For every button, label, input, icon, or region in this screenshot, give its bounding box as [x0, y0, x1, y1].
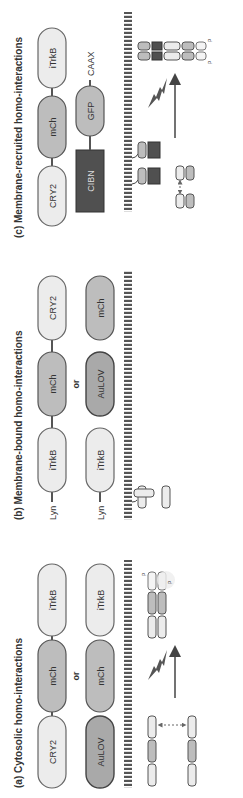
domain-label: AuLOV	[96, 369, 106, 398]
domain-label: iTrkB	[96, 450, 106, 471]
monomer-right	[188, 716, 196, 786]
domain-label: mCh	[96, 666, 106, 685]
panel-c: (c) Membrane-recruited homo-interactions…	[13, 12, 213, 238]
membrane	[124, 12, 132, 212]
domain-label: AuLOV	[96, 737, 106, 766]
panel-b: (b) Membrane-bound homo-interactions Lyn…	[13, 270, 170, 520]
domain-label: GFP	[86, 102, 96, 121]
membrane	[124, 560, 132, 788]
phospho-label: P	[207, 60, 213, 64]
domain-label: mCh	[48, 666, 58, 685]
panel-a-construct-1: CRY2 mCh iTrkB	[38, 564, 66, 788]
panel-a: (a) Cytosolic homo-interactions CRY2 mCh…	[13, 560, 196, 788]
panel-b-title: (b) Membrane-bound homo-interactions	[13, 330, 24, 520]
anchor-label: Lyn	[96, 506, 106, 520]
domain-label: CIBN	[86, 170, 96, 192]
panel-b-construct-2: Lyn iTrkB AuLOV mCh	[86, 276, 114, 520]
phospho-label: P	[167, 580, 173, 584]
recruited-dimer: P P	[138, 38, 213, 64]
domain-label: iTrkB	[48, 450, 58, 471]
anchor-label: CAAX	[86, 51, 96, 76]
domain-label: iTrkB	[48, 590, 58, 611]
light-bolt-icon	[148, 650, 167, 680]
domain-label: iTrkB	[96, 590, 106, 611]
membrane	[124, 270, 132, 520]
figure-rotated: (a) Cytosolic homo-interactions CRY2 mCh…	[0, 0, 243, 798]
panel-a-title: (a) Cytosolic homo-interactions	[13, 638, 24, 788]
phospho-label: P	[141, 572, 147, 576]
domain-label: CRY2	[48, 296, 58, 320]
panel-a-construct-2: AuLOV mCh iTrkB	[86, 564, 114, 788]
panel-c-construct-1: CRY2 mCh iTrkB	[38, 28, 66, 226]
or-label: or	[71, 379, 81, 388]
panel-c-construct-2: CIBN GFP CAAX	[76, 51, 104, 212]
domain-label: CRY2	[48, 740, 58, 764]
recruit-right	[132, 142, 160, 158]
domain-label: iTrkB	[48, 48, 58, 69]
domain-label: mCh	[48, 374, 58, 393]
domain-label: CRY2	[48, 184, 58, 208]
domain-label: mCh	[48, 117, 58, 136]
phospho-label: P	[207, 38, 213, 42]
panel-c-title: (c) Membrane-recruited homo-interactions	[13, 36, 24, 238]
figure-svg: (a) Cytosolic homo-interactions CRY2 mCh…	[0, 0, 243, 798]
dimer: P P	[141, 571, 175, 638]
light-bolt-icon	[148, 78, 167, 108]
monomer-stack-1	[134, 489, 154, 497]
recruit-left	[132, 168, 160, 184]
or-label: or	[71, 671, 81, 680]
domain-label: mCh	[96, 298, 106, 317]
cytosolic-monomers	[176, 166, 194, 208]
anchor-label: Lyn	[48, 506, 58, 520]
monomer-left	[148, 716, 156, 786]
panel-b-construct-1: Lyn iTrkB mCh CRY2	[38, 276, 66, 520]
